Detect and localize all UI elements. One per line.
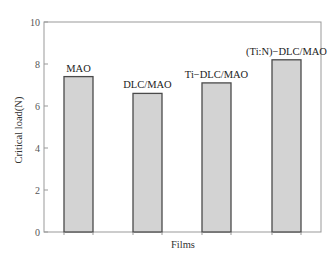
y-tick-label: 0 bbox=[35, 227, 40, 238]
y-tick-label: 8 bbox=[35, 59, 40, 70]
plot-area: 0246810MAODLC/MAOTi−DLC/MAO(Ti:N)−DLC/MA… bbox=[30, 17, 327, 238]
bar-label-3: (Ti:N)−DLC/MAO bbox=[246, 46, 327, 58]
y-tick-label: 6 bbox=[35, 101, 40, 112]
bar-label-1: DLC/MAO bbox=[123, 79, 172, 90]
bar-1 bbox=[133, 93, 162, 232]
bar-label-0: MAO bbox=[66, 63, 91, 74]
bar-chart: 0246810MAODLC/MAOTi−DLC/MAO(Ti:N)−DLC/MA… bbox=[0, 0, 336, 263]
bar-label-2: Ti−DLC/MAO bbox=[185, 69, 249, 80]
x-axis-title: Films bbox=[171, 239, 195, 250]
y-axis-title: Critical load(N) bbox=[13, 96, 25, 163]
y-tick-label: 4 bbox=[35, 143, 40, 154]
y-tick-label: 10 bbox=[30, 17, 40, 28]
bar-2 bbox=[202, 83, 231, 232]
bar-0 bbox=[64, 77, 93, 232]
y-tick-label: 2 bbox=[35, 185, 40, 196]
bar-3 bbox=[272, 60, 301, 232]
